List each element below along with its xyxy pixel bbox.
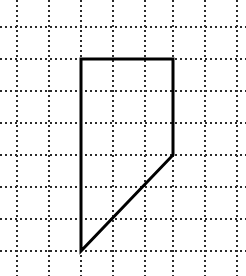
- quadrilateral-outline: [81, 59, 173, 251]
- grid-figure: [0, 0, 246, 276]
- shape-layer: [0, 0, 246, 276]
